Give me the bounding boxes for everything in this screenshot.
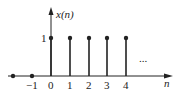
y-tick-label: 1 xyxy=(41,32,47,44)
x-axis-label: n xyxy=(164,77,170,89)
continuation-ellipsis: ... xyxy=(139,52,148,64)
stem-markers xyxy=(49,36,128,40)
svg-text:0: 0 xyxy=(48,79,54,91)
y-axis-arrow-icon xyxy=(49,7,54,15)
svg-text:2: 2 xyxy=(86,79,92,91)
svg-text:−1: −1 xyxy=(26,79,38,91)
svg-text:3: 3 xyxy=(104,79,110,91)
svg-text:4: 4 xyxy=(123,79,129,91)
y-axis-label: x(n) xyxy=(55,8,74,21)
stem-plot: 1 x(n) n ... −1 0 1 2 3 4 xyxy=(0,0,175,98)
svg-text:1: 1 xyxy=(67,79,73,91)
sample-n-minus-2 xyxy=(11,74,15,78)
sample-n-minus-1 xyxy=(30,74,34,78)
x-tick-labels: −1 0 1 2 3 4 xyxy=(26,79,129,91)
stems xyxy=(51,38,126,76)
